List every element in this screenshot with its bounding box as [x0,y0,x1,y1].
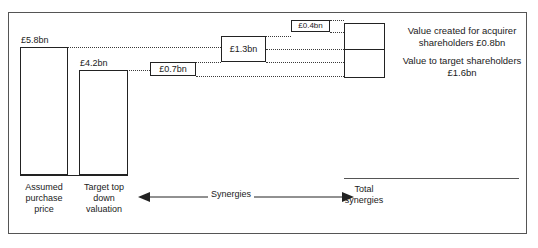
chart-plot-area: £5.8bn £4.2bn £0.7bn £1.3bn £0.4bn Assum… [0,0,538,248]
synergies-axis-label: Synergies [208,190,254,199]
leader-line-step2-to-stack [266,49,344,50]
leader-line-step2-top [266,36,291,37]
leader-line-step2-bottom [266,62,344,63]
chart-baseline [20,175,128,176]
category-label-target-top-down-valuation: Target top down valuation [73,182,135,215]
total-synergies-baseline [344,178,519,179]
bar-target-top-down-valuation [79,70,128,175]
category-label-assumed-purchase-price: Assumed purchase price [14,182,74,215]
bar-label-target-top-down-valuation: £4.2bn [79,59,109,68]
annotation-value-to-target: Value to target shareholders £1.6bn [388,55,536,79]
synergy-step-box-3: £0.4bn [291,20,330,32]
bar-assumed-purchase-price [20,47,68,175]
leader-line-step3-top [330,20,344,21]
bar-label-assumed-purchase-price: £5.8bn [20,36,50,45]
synergy-step-box-1: £0.7bn [150,62,196,76]
leader-line-step1-top [196,62,221,63]
annotation-value-created-acquirer: Value created for acquirer shareholders … [388,25,536,49]
total-synergies-stack [344,23,385,78]
leader-line-step3-bottom [330,32,344,33]
synergy-step-box-2: £1.3bn [221,36,266,62]
leader-line-step1-bottom [196,76,344,77]
total-synergies-stack-divider [344,49,385,50]
